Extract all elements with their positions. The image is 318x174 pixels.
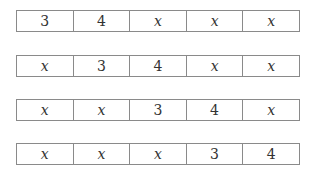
cell: x [73, 100, 130, 120]
sequence-strip-3: x x 3 4 x [16, 99, 300, 121]
cell: 4 [73, 11, 130, 31]
cell: x [129, 144, 186, 164]
cell: 3 [73, 56, 130, 76]
cell: 4 [186, 100, 243, 120]
cell: x [242, 56, 299, 76]
cell: 3 [129, 100, 186, 120]
sequence-strip-2: x 3 4 x x [16, 55, 300, 77]
cell: 4 [129, 56, 186, 76]
cell: 4 [242, 144, 299, 164]
cell: 3 [17, 11, 73, 31]
sequence-strip-1: 3 4 x x x [16, 10, 300, 32]
cell: x [242, 11, 299, 31]
cell: x [73, 144, 130, 164]
sequence-strip-4: x x x 3 4 [16, 143, 300, 165]
cell: x [242, 100, 299, 120]
cell: x [186, 56, 243, 76]
cell: x [17, 56, 73, 76]
cell: x [186, 11, 243, 31]
cell: x [129, 11, 186, 31]
cell: 3 [186, 144, 243, 164]
cell: x [17, 100, 73, 120]
cell: x [17, 144, 73, 164]
